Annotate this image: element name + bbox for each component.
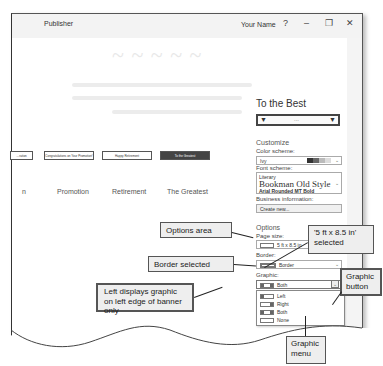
color-scheme-value: Ivy [260, 158, 266, 164]
graphic-left-icon [260, 294, 274, 299]
callout-border-selected: Border selected [148, 256, 234, 272]
close-button[interactable]: ✕ [346, 18, 354, 28]
business-info-dropdown[interactable]: Create new... [256, 204, 342, 213]
menu-item-label: Left [277, 293, 285, 299]
color-swatches [307, 158, 331, 163]
user-name[interactable]: Your Name [241, 21, 276, 28]
color-scheme-dropdown[interactable]: Ivy ⌄ [256, 156, 342, 165]
chevron-down-icon: ⌄ [335, 157, 339, 163]
trophy-icon: ▼ [260, 116, 267, 123]
color-swatch [325, 158, 331, 163]
restore-button[interactable]: ❐ [325, 18, 333, 28]
callout-left-displays: Left displays graphic on left edge of ba… [96, 283, 194, 312]
callout-page-size-selected: '5 ft x 8.5 in' selected [308, 225, 374, 254]
color-scheme-label: Color scheme: [256, 148, 295, 154]
page-size-label: Page size: [256, 233, 284, 239]
app-title: Publisher [44, 20, 73, 27]
help-button[interactable]: ? [283, 18, 288, 28]
banner-thumbnail[interactable]: …ration [10, 151, 33, 160]
graphic-button[interactable]: ⌄ [331, 280, 339, 288]
faint-heading-decoration: ~ ~ ~ ~ ~ [112, 42, 203, 68]
graphic-value: Both [277, 282, 287, 288]
border-label: Border: [256, 252, 276, 258]
business-info-label: Business information: [256, 196, 313, 202]
graphic-menu-item-left[interactable]: Left [260, 293, 285, 299]
graphic-both-icon [260, 283, 274, 288]
faint-text-line [72, 96, 242, 100]
faint-text-line [72, 83, 252, 87]
trophy-icon: ▼ [329, 116, 336, 123]
template-label: Promotion [57, 188, 89, 195]
page-size-thumbnail-icon [260, 243, 274, 248]
template-label: The Greatest [167, 188, 208, 195]
banner-thumbnail[interactable]: Happy Retirement [102, 151, 152, 160]
template-label: Retirement [112, 188, 146, 195]
title-bar: Publisher Your Name ? – ❐ ✕ [12, 14, 362, 38]
template-label: n [22, 188, 26, 195]
font-scheme-label: Font scheme: [256, 165, 292, 171]
banner-thumbnail[interactable]: To the Greatest [160, 151, 210, 160]
font-scheme-dropdown[interactable]: Literary Bookman Old Style Arial Rounded… [256, 172, 342, 194]
customize-heading: Customize [256, 139, 289, 146]
template-title: To the Best [256, 98, 306, 109]
banner-thumbnail[interactable]: Congratulations on Your Promotion! [44, 151, 94, 160]
template-preview: ▼ ... ▼ [256, 114, 340, 126]
body-font: Arial Rounded MT Bold [259, 188, 314, 194]
callout-options-area: Options area [160, 222, 232, 238]
callout-arrow [305, 316, 306, 336]
options-heading: Options [256, 224, 280, 231]
faint-text-line [112, 110, 242, 114]
chevron-down-icon: ⌄ [335, 261, 339, 267]
minimize-button[interactable]: – [304, 18, 309, 28]
preview-dots: ... [294, 116, 299, 122]
business-info-value: Create new... [260, 206, 289, 212]
graphic-label: Graphic: [256, 272, 279, 278]
chevron-down-icon: ⌄ [335, 180, 339, 186]
callout-graphic-menu: Graphic menu [286, 336, 326, 364]
graphic-dropdown[interactable]: Both ⌄ [256, 280, 342, 289]
callout-graphic-button: Graphic button [340, 268, 382, 296]
border-value: Border [279, 262, 294, 268]
